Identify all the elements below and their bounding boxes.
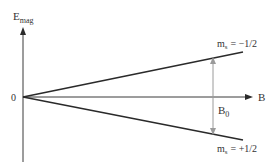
x-axis-label: B (258, 91, 265, 103)
origin-label: 0 (11, 92, 16, 103)
y-axis-label: Emag (13, 10, 34, 25)
splitting-label: B0 (218, 104, 229, 119)
y-axis-arrow-icon (20, 27, 26, 35)
upper-line-label: ms= −1/2 (217, 38, 257, 51)
y-axis (20, 27, 26, 162)
splitting-arrow (210, 57, 216, 135)
x-axis (23, 94, 253, 100)
zeeman-energy-diagram: Emag 0 B ms= −1/2 ms= +1/2 B0 (0, 0, 280, 167)
lower-energy-line (23, 97, 243, 140)
lower-line-label: ms= +1/2 (217, 143, 257, 156)
upper-energy-line (23, 52, 243, 97)
x-axis-arrow-icon (245, 94, 253, 100)
